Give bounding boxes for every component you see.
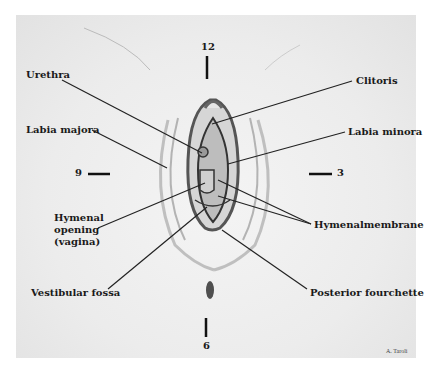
label-hymenal-opening-line1: Hymenal bbox=[54, 212, 104, 224]
label-vestibular-fossa: Vestibular fossa bbox=[31, 287, 120, 299]
clock-label-9: 9 bbox=[75, 167, 82, 178]
label-hymenal-opening: Hymenal opening (vagina) bbox=[54, 212, 104, 248]
label-hymenal-opening-line3: (vagina) bbox=[54, 236, 104, 248]
label-labia-minora: Labia minora bbox=[348, 126, 422, 138]
label-hymenal-opening-line2: opening bbox=[54, 224, 104, 236]
clock-label-3: 3 bbox=[337, 167, 344, 178]
label-posterior-fourchette: Posterior fourchette bbox=[310, 287, 424, 299]
anatomy-drawing bbox=[0, 0, 429, 373]
label-hymenal-membrane: Hymenalmembrane bbox=[314, 219, 424, 231]
clock-label-6: 6 bbox=[203, 340, 210, 351]
label-urethra: Urethra bbox=[26, 69, 70, 81]
label-clitoris: Clitoris bbox=[356, 75, 398, 87]
artist-credit: A. Taroli bbox=[386, 348, 407, 354]
label-labia-majora: Labia majora bbox=[26, 124, 99, 136]
clock-label-12: 12 bbox=[201, 41, 215, 52]
